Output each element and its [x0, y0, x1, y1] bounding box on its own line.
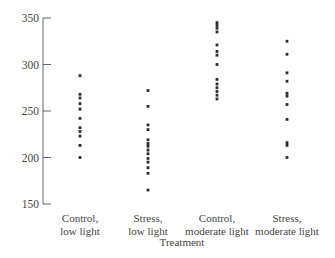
data-point [79, 93, 82, 96]
data-point [216, 54, 219, 57]
data-point [79, 97, 82, 100]
data-point [286, 53, 289, 56]
data-point [147, 172, 150, 175]
data-points [79, 21, 289, 191]
x-category-label: Stress, [272, 212, 301, 224]
x-axis: Control,low lightStress,low lightControl… [60, 212, 319, 237]
data-point [286, 144, 289, 147]
data-point [79, 74, 82, 77]
data-point [216, 50, 219, 53]
data-point [216, 31, 219, 34]
data-point [216, 63, 219, 66]
data-point [79, 117, 82, 120]
data-point [216, 86, 219, 89]
data-point [216, 98, 219, 101]
data-point [147, 166, 150, 169]
series-2 [147, 89, 150, 191]
data-point [286, 118, 289, 121]
data-point [147, 145, 150, 148]
data-point [216, 27, 219, 30]
data-point [147, 89, 150, 92]
x-category-label: moderate light [255, 225, 319, 237]
data-point [216, 21, 219, 24]
data-point [147, 152, 150, 155]
data-point [216, 94, 219, 97]
series-4 [286, 40, 289, 159]
y-tick-label: 300 [22, 59, 40, 71]
data-point [147, 105, 150, 108]
data-point [147, 142, 150, 145]
strip-chart: 150200250300350 Control,low lightStress,… [0, 0, 335, 258]
data-point [79, 126, 82, 129]
data-point [79, 108, 82, 111]
data-point [147, 157, 150, 160]
x-category-label: Control, [62, 212, 99, 224]
data-point [147, 124, 150, 127]
data-point [286, 95, 289, 98]
x-category-label: low light [60, 225, 99, 237]
series-3 [216, 21, 219, 100]
data-point [216, 44, 219, 47]
data-point [147, 189, 150, 192]
y-axis: 150200250300350 [22, 12, 51, 210]
data-point [286, 141, 289, 144]
data-point [286, 92, 289, 95]
y-tick-label: 200 [22, 152, 40, 164]
data-point [79, 102, 82, 105]
data-point [147, 149, 150, 152]
y-tick-label: 250 [22, 105, 40, 117]
data-point [147, 138, 150, 141]
data-point [286, 71, 289, 74]
x-axis-title: Treatment [160, 236, 205, 248]
x-category-label: Stress, [133, 212, 162, 224]
data-point [79, 156, 82, 159]
data-point [79, 144, 82, 147]
data-point [79, 130, 82, 133]
data-point [286, 40, 289, 43]
y-tick-label: 150 [22, 198, 40, 210]
data-point [147, 161, 150, 164]
data-point [216, 78, 219, 81]
data-point [286, 156, 289, 159]
data-point [147, 128, 150, 131]
data-point [216, 90, 219, 93]
x-category-label: Control, [199, 212, 236, 224]
y-tick-label: 350 [22, 12, 40, 24]
series-1 [79, 74, 82, 159]
data-point [286, 80, 289, 83]
data-point [216, 83, 219, 86]
data-point [286, 103, 289, 106]
data-point [216, 24, 219, 27]
data-point [79, 135, 82, 138]
